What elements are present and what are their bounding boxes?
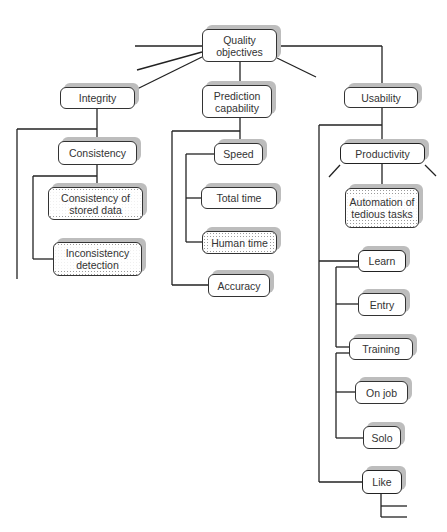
node-label: On job (366, 387, 397, 399)
node-on-job: On job (355, 381, 408, 404)
node-automation-of-tedious-tasks: Automation of tedious tasks (345, 188, 419, 228)
node-label: Integrity (79, 92, 116, 104)
node-label: Total time (217, 192, 262, 204)
node-like: Like (362, 470, 402, 494)
node-solo: Solo (363, 426, 401, 449)
node-usability: Usability (344, 87, 418, 108)
node-label: Usability (361, 92, 401, 104)
node-training: Training (349, 338, 413, 360)
node-label: Training (362, 343, 400, 355)
node-integrity: Integrity (60, 87, 135, 109)
node-entry: Entry (358, 293, 406, 316)
connector-productivity-right-diagonal (425, 165, 436, 176)
node-label: Prediction capability (203, 90, 271, 114)
node-label: Automation of tedious tasks (346, 196, 418, 220)
node-label: Learn (369, 255, 396, 267)
node-consistency: Consistency (58, 141, 137, 165)
node-consistency-of-stored-data: Consistency of stored data (48, 187, 143, 220)
node-label: Consistency (69, 147, 126, 159)
node-accuracy: Accuracy (208, 274, 270, 297)
node-quality-objectives: Quality objectives (202, 29, 277, 62)
node-total-time: Total time (201, 187, 277, 209)
node-label: Speed (223, 148, 253, 160)
node-label: Solo (371, 432, 392, 444)
node-label: Like (372, 476, 391, 488)
quality-objectives-diagram: Quality objectives Integrity Prediction … (0, 0, 447, 532)
node-label: Inconsistency detection (54, 247, 141, 271)
node-label: Entry (370, 299, 395, 311)
node-label: Quality objectives (203, 34, 276, 58)
connector-root-left-diagonal (137, 52, 202, 70)
node-label: Productivity (355, 148, 409, 160)
node-label: Consistency of stored data (49, 192, 142, 216)
connector-root-right-diagonal (277, 58, 316, 77)
node-productivity: Productivity (340, 143, 425, 164)
node-speed: Speed (214, 143, 263, 165)
node-inconsistency-detection: Inconsistency detection (53, 242, 142, 276)
node-label: Human time (209, 237, 270, 249)
connector-productivity-left-diagonal (329, 165, 340, 177)
node-prediction-capability: Prediction capability (202, 85, 272, 118)
node-learn: Learn (358, 250, 406, 272)
node-label: Accuracy (217, 280, 260, 292)
node-human-time: Human time (202, 231, 277, 254)
